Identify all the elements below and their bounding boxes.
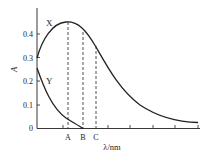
y-tick-0.4: 0.4 — [23, 30, 33, 39]
x-tick-c: C — [93, 133, 98, 142]
y-tick-0.2: 0.2 — [23, 77, 33, 86]
y-tick-0: 0 — [29, 124, 33, 133]
x-axis-title: λ/nm — [103, 142, 121, 152]
series-label-y: Y — [46, 76, 53, 86]
series-label-x: X — [46, 18, 53, 28]
curve-y — [37, 68, 83, 129]
curve-x — [37, 22, 198, 123]
x-tick-b: B — [80, 133, 85, 142]
y-axis-title: A — [9, 66, 19, 73]
y-tick-0.1: 0.1 — [23, 101, 33, 110]
x-tick-a: A — [65, 133, 71, 142]
y-tick-0.3: 0.3 — [23, 54, 33, 63]
absorbance-chart: 0 0.1 0.2 0.3 0.4 A X Y A B C λ/nm — [0, 0, 209, 160]
